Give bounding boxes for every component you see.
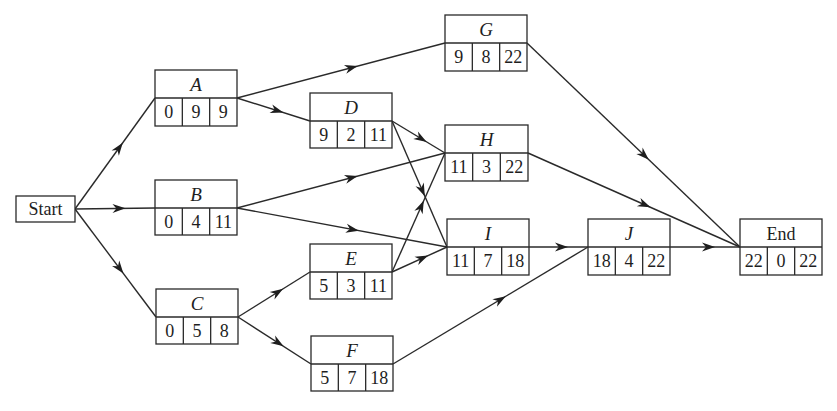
latest-finish-value: 22 [504,47,522,67]
duration-value: 7 [348,368,357,388]
node-h: H11322 [445,125,528,181]
duration-value: 4 [192,212,201,232]
edge-line [237,43,445,98]
node-end: End22022 [740,219,822,275]
earliest-start-value: 5 [320,368,329,388]
latest-finish-value: 11 [370,125,387,145]
edge-line [238,317,311,364]
edge-e-h [392,153,445,272]
arrowhead-icon [270,289,283,300]
edge-line [75,98,155,209]
earliest-start-value: 18 [593,251,611,271]
earliest-start-value: 9 [454,47,463,67]
node-b: B0411 [155,180,237,235]
edge-b-h [237,153,445,208]
duration-value: 2 [347,125,356,145]
duration-value: 3 [347,276,356,296]
earliest-start-value: 11 [450,157,467,177]
node-e: E5311 [310,244,392,299]
earliest-start-value: 22 [745,251,763,271]
edge-line [75,209,156,317]
arrowhead-icon [112,143,123,156]
project-network-diagram: StartA099B0411C058D9211E5311F5718G9822H1… [0,0,837,411]
node-j: J18422 [588,219,670,275]
edge-line [527,43,740,247]
node-label: B [190,184,202,205]
edge-line [238,272,310,317]
duration-value: 7 [484,251,493,271]
node-label: G [479,19,493,40]
duration-value: 0 [777,251,786,271]
latest-finish-value: 22 [799,251,817,271]
arrowhead-icon [492,296,505,307]
duration-value: 3 [482,157,491,177]
edge-a-d [237,98,310,121]
edge-line [237,98,310,121]
edge-start-b [75,204,155,213]
earliest-start-value: 0 [164,102,173,122]
node-i: I11718 [447,219,529,275]
earliest-start-value: 5 [319,276,328,296]
latest-finish-value: 8 [220,321,229,341]
edge-start-c [75,209,156,317]
edge-line [237,208,447,247]
duration-value: 8 [482,47,491,67]
start-label: Start [29,199,63,219]
duration-value: 5 [193,321,202,341]
node-label: End [767,224,796,244]
node-c: C058 [156,289,238,344]
node-d: D9211 [310,93,392,148]
edge-c-f [238,317,311,364]
edge-g-end [527,43,740,247]
edge-line [392,121,445,153]
node-g: G9822 [445,15,527,71]
nodes-layer: StartA099B0411C058D9211E5311F5718G9822H1… [16,15,822,391]
node-f: F5718 [311,336,393,391]
earliest-start-value: 9 [319,125,328,145]
latest-finish-value: 18 [506,251,524,271]
edge-line [392,247,447,272]
node-label: E [344,248,357,269]
edge-line [237,153,445,208]
edge-j-end [670,243,740,252]
node-label: F [345,340,358,361]
edge-e-i [392,247,447,272]
edge-line [75,208,155,209]
latest-finish-value: 22 [647,251,665,271]
node-label: D [343,97,358,118]
latest-finish-value: 18 [370,368,388,388]
earliest-start-value: 11 [452,251,469,271]
edge-a-g [237,43,445,98]
duration-value: 4 [625,251,634,271]
latest-finish-value: 11 [215,212,232,232]
node-start: Start [16,196,75,222]
arrowhead-icon [413,131,426,142]
node-a: A099 [155,70,237,126]
node-label: C [191,293,204,314]
node-label: H [479,129,495,150]
latest-finish-value: 9 [219,102,228,122]
edge-b-i [237,208,447,247]
edge-start-a [75,98,155,209]
arrowhead-icon [270,336,283,347]
node-label: A [188,74,202,95]
edge-d-h [392,121,445,153]
earliest-start-value: 0 [164,212,173,232]
duration-value: 9 [192,102,201,122]
edge-c-e [238,272,310,317]
earliest-start-value: 0 [165,321,174,341]
edge-i-j [529,243,588,252]
latest-finish-value: 22 [505,157,523,177]
arrowhead-icon [112,261,123,274]
edge-line [392,153,445,272]
latest-finish-value: 11 [370,276,387,296]
